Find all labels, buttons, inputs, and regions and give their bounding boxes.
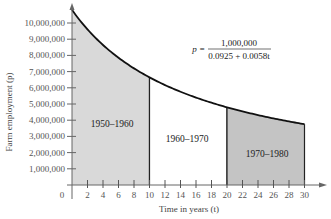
- x-tick-label: 14: [176, 190, 186, 200]
- x-tick-label: 4: [101, 190, 106, 200]
- x-tick-label: 6: [116, 190, 121, 200]
- region-1: [150, 77, 228, 185]
- x-tick-label: 0: [60, 190, 65, 200]
- x-tick-label: 24: [254, 190, 264, 200]
- y-axis-title: Farm employment (p): [4, 73, 14, 152]
- y-tick-label: 7,000,000: [29, 67, 66, 77]
- x-tick-label: 22: [238, 190, 247, 200]
- y-tick-label: 4,000,000: [29, 115, 66, 125]
- region-label: 1960–1970: [166, 134, 209, 144]
- y-tick-label: 2,000,000: [29, 148, 66, 158]
- y-tick-label: 6,000,000: [29, 83, 66, 93]
- y-tick-label: 5,000,000: [29, 99, 66, 109]
- x-tick-label: 16: [192, 190, 202, 200]
- x-axis-arrow-icon: [319, 183, 327, 188]
- y-tick-label: 3,000,000: [29, 131, 66, 141]
- region-label: 1970–1980: [246, 149, 289, 159]
- x-tick-label: 18: [207, 190, 217, 200]
- y-tick-label: 8,000,000: [29, 50, 66, 60]
- y-axis-arrow-icon: [70, 3, 75, 10]
- x-axis-title: Time in years (t): [159, 204, 219, 214]
- x-tick-label: 10: [145, 190, 155, 200]
- formula-numerator: 1,000,000: [221, 38, 258, 48]
- x-tick-label: 28: [285, 190, 295, 200]
- farm-employment-chart: 1,000,0002,000,0003,000,0004,000,0005,00…: [0, 0, 331, 219]
- region-2: [227, 107, 305, 185]
- x-tick-label: 8: [132, 190, 137, 200]
- y-tick-label: 1,000,000: [29, 164, 66, 174]
- formula-lhs: p =: [191, 44, 205, 54]
- formula: p = 1,000,000 0.0925 + 0.0058t: [191, 38, 271, 61]
- x-tick-label: 26: [269, 190, 279, 200]
- region-label: 1950–1960: [91, 119, 134, 129]
- region-0: [72, 10, 150, 185]
- x-tick-label: 12: [161, 190, 170, 200]
- y-tick-label: 10,000,000: [25, 18, 66, 28]
- x-tick-label: 2: [85, 190, 90, 200]
- x-tick-label: 30: [300, 190, 310, 200]
- formula-denominator: 0.0925 + 0.0058t: [208, 51, 270, 61]
- y-axis-ticks: 1,000,0002,000,0003,000,0004,000,0005,00…: [25, 18, 77, 174]
- y-tick-label: 9,000,000: [29, 34, 66, 44]
- x-tick-label: 20: [223, 190, 233, 200]
